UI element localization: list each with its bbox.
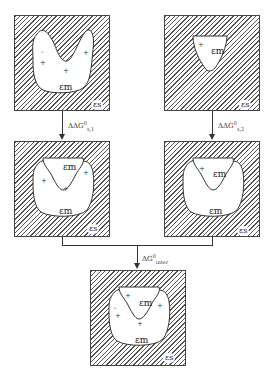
panel-complex-right: + εm εm εs xyxy=(164,141,260,237)
eps-m-label-protein: εm xyxy=(209,207,222,216)
panel-complex-left: εm + + + εm εs xyxy=(14,141,110,237)
arrow-head-left xyxy=(59,134,65,140)
charge-sign: + xyxy=(198,42,204,49)
eps-m-label-ligand: εm xyxy=(139,299,152,308)
charge-sign: + xyxy=(115,313,121,320)
arrow-line-left xyxy=(62,111,63,135)
charge-sign: + xyxy=(63,186,69,193)
panel-ligand-b-solvated: + εm εs xyxy=(164,15,260,111)
eps-m-label-ligand: εm xyxy=(63,163,76,172)
charge-sign: + xyxy=(157,303,163,310)
ddg-s2-label: ΔΔG0s,2 xyxy=(218,120,244,133)
eps-s-label: εs xyxy=(163,353,175,363)
eps-s-label: εs xyxy=(91,100,103,110)
eps-s-label: εs xyxy=(237,226,249,236)
ddg-s1-label: ΔΔG0s,1 xyxy=(68,120,94,133)
eps-s-label: εs xyxy=(239,100,251,110)
arrow-line-right xyxy=(212,111,213,135)
connector-left-drop xyxy=(62,237,63,245)
charge-sign: + xyxy=(63,68,69,75)
eps-s-label: εs xyxy=(87,224,99,234)
charge-sign: + xyxy=(199,166,205,173)
charge-sign: + xyxy=(83,170,89,177)
panel-complex-interaction: + εm + - + + εm εs xyxy=(90,270,186,366)
connector-right-drop xyxy=(212,237,213,245)
eps-m-label: εm xyxy=(59,83,72,92)
complex-right-shape xyxy=(165,142,261,238)
panel-protein-a-solvated: - + + + εm εs xyxy=(14,15,110,111)
charge-sign: + xyxy=(137,321,143,328)
dg-inter-label: ΔG0inter xyxy=(142,253,168,266)
eps-m-label-protein: εm xyxy=(59,207,72,216)
arrow-head-right xyxy=(209,134,215,140)
arrow-line-merge xyxy=(137,245,138,264)
charge-sign: + xyxy=(40,60,46,67)
eps-m-label: εm xyxy=(211,47,224,56)
arrow-head-merge xyxy=(134,263,140,269)
charge-sign: - xyxy=(114,305,116,312)
charge-sign: - xyxy=(41,49,43,56)
eps-m-label-protein: εm xyxy=(135,336,148,345)
eps-m-label-ligand: εm xyxy=(213,170,226,179)
charge-sign: + xyxy=(83,50,89,57)
ligand-b-shape xyxy=(165,16,261,112)
charge-sign: + xyxy=(41,178,47,185)
protein-a-cavity-shape xyxy=(15,16,111,112)
charge-sign: + xyxy=(125,293,131,300)
